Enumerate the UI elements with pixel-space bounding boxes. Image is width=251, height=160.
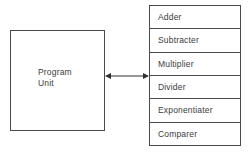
- unit-row: Subtracter: [150, 29, 240, 52]
- unit-row-label: Adder: [158, 12, 182, 22]
- unit-row-label: Divider: [158, 82, 186, 92]
- unit-row: Multiplier: [150, 53, 240, 76]
- unit-row-label: Exponentiater: [158, 105, 213, 115]
- program-unit-box: Program Unit: [10, 30, 105, 131]
- unit-row-label: Subtracter: [158, 35, 199, 45]
- unit-row: Comparer: [150, 123, 240, 145]
- bidirectional-arrow-icon: [104, 68, 150, 84]
- unit-row-label: Comparer: [158, 129, 197, 139]
- unit-row: Divider: [150, 76, 240, 99]
- unit-row: Exponentiater: [150, 99, 240, 122]
- unit-row-label: Multiplier: [158, 59, 194, 69]
- unit-stack: Adder Subtracter Multiplier Divider Expo…: [149, 5, 241, 146]
- diagram-canvas: Program Unit Adder Subtracter Multiplier…: [0, 0, 251, 160]
- program-unit-label: Program Unit: [38, 67, 72, 88]
- unit-row: Adder: [150, 6, 240, 29]
